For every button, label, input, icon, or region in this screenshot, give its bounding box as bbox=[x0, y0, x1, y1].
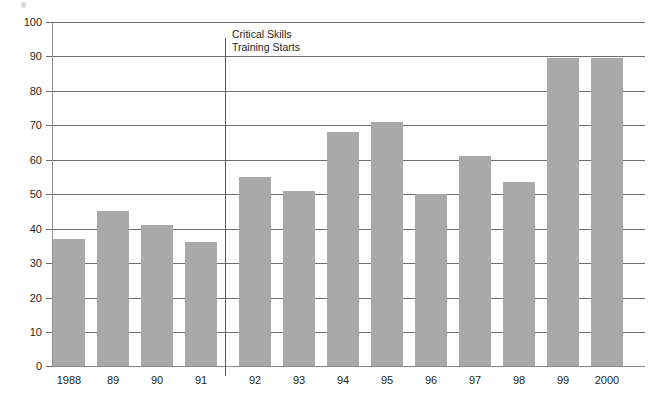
y-tick-label-50: 50 bbox=[6, 189, 42, 200]
x-tick-label-96: 96 bbox=[408, 374, 454, 386]
plot-area bbox=[53, 22, 645, 366]
bar-96 bbox=[415, 194, 447, 366]
bar-95 bbox=[371, 122, 403, 366]
bar-99 bbox=[547, 58, 579, 366]
critical-skills-divider bbox=[225, 38, 226, 376]
y-tick-label-100: 100 bbox=[6, 17, 42, 28]
y-tick-label-30: 30 bbox=[6, 258, 42, 269]
x-tick-label-94: 94 bbox=[320, 374, 366, 386]
gridline-100 bbox=[53, 22, 645, 23]
x-tick-label-93: 93 bbox=[276, 374, 322, 386]
bar-90 bbox=[141, 225, 173, 366]
x-tick-label-90: 90 bbox=[134, 374, 180, 386]
annotation-line-1: Critical Skills bbox=[232, 28, 292, 41]
bar-93 bbox=[283, 191, 315, 366]
y-tick-label-60: 60 bbox=[6, 155, 42, 166]
y-tick-label-40: 40 bbox=[6, 224, 42, 235]
x-tick-label-2000: 2000 bbox=[584, 374, 630, 386]
x-tick-label-92: 92 bbox=[232, 374, 278, 386]
bar-chart: 100 90 80 70 60 50 40 30 20 10 0 bbox=[0, 0, 658, 411]
bar-98 bbox=[503, 182, 535, 366]
x-tick-label-98: 98 bbox=[496, 374, 542, 386]
y-tick-label-70: 70 bbox=[6, 120, 42, 131]
y-tick-0 bbox=[46, 366, 53, 367]
gridline-0 bbox=[53, 366, 645, 367]
y-tick-label-0: 0 bbox=[6, 361, 42, 372]
y-tick-label-20: 20 bbox=[6, 293, 42, 304]
x-tick-label-89: 89 bbox=[90, 374, 136, 386]
x-tick-label-91: 91 bbox=[178, 374, 224, 386]
gridline-90 bbox=[53, 56, 645, 57]
x-tick-label-95: 95 bbox=[364, 374, 410, 386]
y-axis-labels: 100 90 80 70 60 50 40 30 20 10 0 bbox=[0, 0, 42, 411]
x-tick-label-1988: 1988 bbox=[46, 374, 92, 386]
y-tick-label-90: 90 bbox=[6, 51, 42, 62]
bar-94 bbox=[327, 132, 359, 366]
x-tick-label-97: 97 bbox=[452, 374, 498, 386]
bar-2000 bbox=[591, 58, 623, 366]
bar-92 bbox=[239, 177, 271, 366]
bar-89 bbox=[97, 211, 129, 366]
bar-1988 bbox=[53, 239, 85, 366]
bar-97 bbox=[459, 156, 491, 366]
bar-91 bbox=[185, 242, 217, 366]
x-tick-label-99: 99 bbox=[540, 374, 586, 386]
y-tick-label-80: 80 bbox=[6, 86, 42, 97]
annotation-line-2: Training Starts bbox=[232, 41, 300, 54]
y-tick-label-10: 10 bbox=[6, 327, 42, 338]
